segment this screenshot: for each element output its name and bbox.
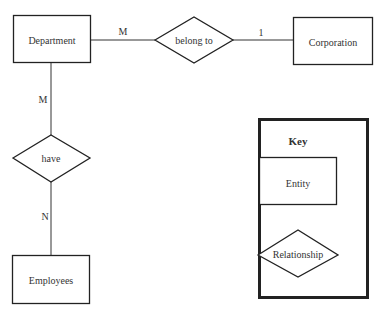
key-box xyxy=(260,120,368,298)
relationship-belong-to-label: belong to xyxy=(175,35,213,46)
cardinality-belong-corp: 1 xyxy=(259,27,264,38)
key-entity-label: Entity xyxy=(286,178,310,189)
entity-department-label: Department xyxy=(28,35,75,46)
key-relationship-label: Relationship xyxy=(273,249,324,260)
cardinality-dept-have: M xyxy=(39,94,48,105)
cardinality-have-emp: N xyxy=(41,211,48,222)
cardinality-dept-belong: M xyxy=(119,26,128,37)
relationship-have-label: have xyxy=(42,153,61,164)
entity-employees-label: Employees xyxy=(29,275,73,286)
entity-corporation-label: Corporation xyxy=(309,37,357,48)
key-title: Key xyxy=(289,135,308,147)
